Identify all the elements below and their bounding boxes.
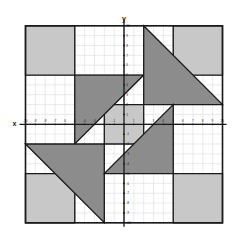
x-tick-label: 3 xyxy=(152,119,154,123)
y-tick-label: -9 xyxy=(126,211,129,215)
x-tick-label: 2 xyxy=(143,119,145,123)
square-bottom-right xyxy=(173,174,222,223)
x-tick-label: 8 xyxy=(202,119,204,123)
x-tick-dot xyxy=(54,123,56,125)
y-tick-label: 5 xyxy=(126,73,128,77)
y-tick-dot xyxy=(123,54,125,56)
x-tick-dot xyxy=(74,123,76,125)
y-tick-label: 7 xyxy=(126,54,128,58)
y-tick-dot xyxy=(123,183,125,185)
x-tick-label: 7 xyxy=(192,119,194,123)
x-tick-label: -2 xyxy=(103,119,106,123)
x-tick-label: -3 xyxy=(93,119,96,123)
y-tick-label: -1 xyxy=(126,132,129,136)
y-tick-dot xyxy=(123,143,125,145)
y-tick-label: 4 xyxy=(126,83,128,87)
y-tick-label: 8 xyxy=(126,44,128,48)
y-tick-dot xyxy=(123,212,125,214)
x-tick-label: -1 xyxy=(113,119,116,123)
square-top-left xyxy=(26,26,75,75)
x-tick-dot xyxy=(182,123,184,125)
x-tick-label: 5 xyxy=(172,119,174,123)
x-tick-dot xyxy=(84,123,86,125)
x-tick-dot xyxy=(212,123,214,125)
y-tick-dot xyxy=(123,192,125,194)
y-tick-dot xyxy=(123,163,125,165)
y-axis-label: y xyxy=(122,15,126,22)
x-tick-dot xyxy=(94,123,96,125)
y-tick-dot xyxy=(123,153,125,155)
x-tick-dot xyxy=(103,123,105,125)
x-tick-label: -7 xyxy=(53,119,56,123)
x-tick-dot xyxy=(143,123,145,125)
x-tick-dot xyxy=(202,123,204,125)
y-tick-dot xyxy=(123,114,125,116)
grid-plot-svg: -10-9-8-7-6-5-4-3-2-112345678910-10-9-8-… xyxy=(0,0,239,248)
x-tick-label: 6 xyxy=(182,119,184,123)
y-tick-label: -4 xyxy=(126,162,129,166)
y-tick-dot xyxy=(123,202,125,204)
x-tick-dot xyxy=(44,123,46,125)
x-tick-dot xyxy=(172,123,174,125)
y-tick-label: 9 xyxy=(126,34,128,38)
y-tick-dot xyxy=(123,84,125,86)
y-tick-label: 2 xyxy=(126,103,128,107)
y-tick-label: -8 xyxy=(126,201,129,205)
x-tick-dot xyxy=(192,123,194,125)
x-tick-dot xyxy=(133,123,135,125)
y-tick-dot xyxy=(123,45,125,47)
y-tick-dot xyxy=(123,74,125,76)
x-tick-label: -5 xyxy=(73,119,76,123)
y-tick-dot xyxy=(123,35,125,37)
y-tick-label: -7 xyxy=(126,191,129,195)
y-tick-dot xyxy=(123,104,125,106)
x-tick-label: -6 xyxy=(63,119,66,123)
x-tick-label: -8 xyxy=(44,119,47,123)
y-tick-label: 3 xyxy=(126,93,128,97)
x-tick-label: 4 xyxy=(162,119,164,123)
x-tick-label: 1 xyxy=(133,119,135,123)
x-tick-dot xyxy=(113,123,115,125)
coordinate-grid-figure: -10-9-8-7-6-5-4-3-2-112345678910-10-9-8-… xyxy=(0,0,239,248)
y-tick-label: 1 xyxy=(126,113,128,117)
y-tick-label: -2 xyxy=(126,142,129,146)
y-tick-label: 6 xyxy=(126,63,128,67)
y-tick-dot xyxy=(123,94,125,96)
x-tick-label: -4 xyxy=(83,119,86,123)
x-axis-label: x xyxy=(13,120,17,127)
y-tick-dot xyxy=(123,64,125,66)
y-tick-label: -3 xyxy=(126,152,129,156)
y-tick-dot xyxy=(123,133,125,135)
x-tick-label: -9 xyxy=(34,119,37,123)
y-tick-label: -5 xyxy=(126,172,129,176)
x-tick-dot xyxy=(34,123,36,125)
y-tick-dot xyxy=(123,173,125,175)
x-tick-dot xyxy=(163,123,165,125)
y-tick-label: -6 xyxy=(126,182,129,186)
origin-dot xyxy=(123,123,125,125)
x-tick-dot xyxy=(153,123,155,125)
x-tick-label: 9 xyxy=(212,119,214,123)
x-tick-dot xyxy=(64,123,66,125)
